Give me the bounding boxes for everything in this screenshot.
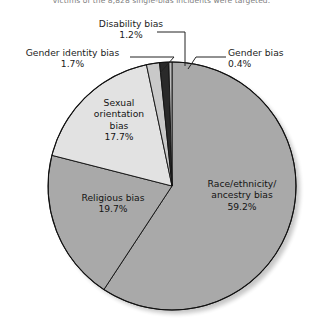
callout-disability-bias: Disability bias 1.2% [79,18,183,41]
callout-gender-title: Gender bias [228,47,316,58]
slice-label-religious-line1: Religious bias [57,192,169,203]
callout-disability-title: Disability bias [79,18,183,29]
slice-label-race-ethnicity-bias: Race/ethnicity/ ancestry bias 59.2% [186,178,298,212]
slice-label-sexual-line2: orientation [78,108,160,119]
callout-gender-identity-bias: Gender identity bias 1.7% [8,47,137,70]
slice-label-race-line1: Race/ethnicity/ [186,178,298,189]
slice-label-religious-value: 19.7% [57,203,169,214]
slice-label-race-value: 59.2% [186,201,298,212]
callout-gender-value: 0.4% [228,58,316,69]
slice-label-sexual-line1: Sexual [78,97,160,108]
slice-label-race-line2: ancestry bias [186,189,298,200]
callout-gender-bias: Gender bias 0.4% [228,47,316,70]
slice-label-sexual-orientation-bias: Sexual orientation bias 17.7% [78,97,160,143]
callout-disability-value: 1.2% [79,29,183,40]
slice-label-sexual-value: 17.7% [78,131,160,142]
slice-label-religious-bias: Religious bias 19.7% [57,192,169,215]
chart-screenshot: victims of the 8,828 single-bias inciden… [0,0,323,328]
callout-gender-identity-title: Gender identity bias [8,47,137,58]
callout-gender-identity-value: 1.7% [8,58,137,69]
slice-label-sexual-line3: bias [78,120,160,131]
